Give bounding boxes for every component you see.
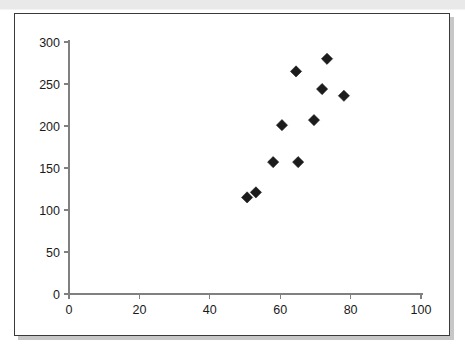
data-series: 50.6, 11553.1, 12158, 15760.5, 20164.5, … <box>242 53 350 203</box>
y-axis-tick-label: 300 <box>39 36 60 50</box>
x-axis-tick-label: 80 <box>344 303 358 317</box>
data-point-marker: 60.5, 201 <box>276 120 287 131</box>
y-axis-tick-label: 100 <box>39 204 60 218</box>
page-top-band-edge <box>0 9 465 10</box>
x-axis-tick-label: 60 <box>273 303 287 317</box>
scatter-plot: 05010015020025030002040608010050.6, 1155… <box>15 14 449 335</box>
x-axis-tick-label: 40 <box>203 303 217 317</box>
y-axis-tick-label: 150 <box>39 162 60 176</box>
data-point-marker: 78.1, 236 <box>338 90 349 101</box>
y-axis-tick-label: 200 <box>39 120 60 134</box>
data-point-marker: 71.9, 244 <box>316 83 327 94</box>
chart-figure-frame: 05010015020025030002040608010050.6, 1155… <box>14 13 450 336</box>
x-axis-tick-label: 100 <box>411 303 432 317</box>
data-point-marker: 58, 157 <box>268 157 279 168</box>
data-point-marker: 64.5, 265 <box>290 66 301 77</box>
y-axis-tick-label: 250 <box>39 78 60 92</box>
x-axis-tick-label: 0 <box>66 303 73 317</box>
data-point-marker: 73.3, 280 <box>321 53 332 64</box>
x-axis-tick-label: 20 <box>132 303 146 317</box>
data-point-marker: 65.1, 157 <box>293 157 304 168</box>
y-axis-tick-label: 0 <box>53 288 60 302</box>
y-axis-tick-label: 50 <box>46 246 60 260</box>
page-top-band <box>0 0 465 9</box>
data-point-marker: 69.6, 207 <box>308 115 319 126</box>
screenshot-root: 05010015020025030002040608010050.6, 1155… <box>0 0 465 349</box>
